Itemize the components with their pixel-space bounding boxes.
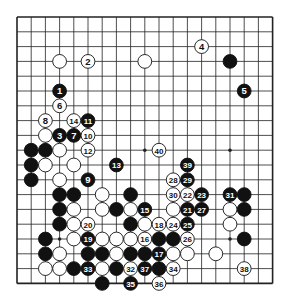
move-number: 4 — [199, 41, 205, 52]
stone-icon — [95, 188, 109, 202]
move-number: 25 — [183, 221, 192, 230]
black-stone-39: 39 — [181, 158, 195, 172]
black-stone-5: 5 — [237, 84, 251, 98]
stone-icon — [181, 247, 195, 261]
stone-icon — [53, 247, 67, 261]
white-stone-38: 38 — [237, 262, 251, 276]
move-number: 27 — [197, 206, 206, 215]
white-stone-8: 8 — [39, 114, 53, 128]
stone-icon — [24, 158, 38, 172]
stone-icon — [124, 217, 138, 231]
white-stone — [95, 203, 109, 217]
stone-icon — [166, 232, 180, 246]
stone-icon — [138, 247, 152, 261]
stone-icon — [110, 247, 124, 261]
move-number: 26 — [183, 235, 192, 244]
black-stone — [24, 173, 38, 187]
white-stone — [124, 232, 138, 246]
white-stone — [95, 232, 109, 246]
stone-icon — [67, 262, 81, 276]
black-stone-29: 29 — [181, 173, 195, 187]
move-number: 19 — [84, 235, 93, 244]
stone-icon — [138, 217, 152, 231]
move-number: 38 — [240, 265, 249, 274]
black-stone-3: 3 — [53, 129, 67, 143]
stone-icon — [67, 203, 81, 217]
white-stone-40: 40 — [152, 143, 166, 157]
white-stone-18: 18 — [152, 217, 166, 231]
black-stone-23: 23 — [195, 188, 209, 202]
black-stone-13: 13 — [110, 158, 124, 172]
stone-icon — [95, 247, 109, 261]
white-stone — [138, 55, 152, 69]
white-stone — [223, 203, 237, 217]
move-number: 3 — [57, 130, 62, 141]
move-number: 29 — [183, 176, 192, 185]
stone-icon — [39, 247, 53, 261]
black-stone-9: 9 — [81, 173, 95, 187]
stone-icon — [39, 232, 53, 246]
stone-icon — [39, 158, 53, 172]
stone-icon — [124, 203, 138, 217]
stone-icon — [223, 217, 237, 231]
move-number: 2 — [85, 56, 90, 67]
black-stone — [39, 232, 53, 246]
black-stone — [138, 247, 152, 261]
black-stone-27: 27 — [195, 203, 209, 217]
go-board: 1234567891011121314151617181920212223242… — [0, 0, 286, 307]
stone-icon — [110, 232, 124, 246]
stone-icon — [67, 158, 81, 172]
black-stone-7: 7 — [67, 129, 81, 143]
white-stone — [67, 158, 81, 172]
white-stone — [67, 203, 81, 217]
stone-icon — [81, 247, 95, 261]
move-number: 9 — [85, 174, 90, 185]
stone-icon — [166, 247, 180, 261]
black-stone — [124, 188, 138, 202]
black-stone — [53, 188, 67, 202]
black-stone-19: 19 — [81, 232, 95, 246]
stone-icon — [95, 262, 109, 276]
white-stone-4: 4 — [195, 40, 209, 54]
star-point-icon — [143, 148, 147, 152]
white-stone-16: 16 — [138, 232, 152, 246]
white-stone — [124, 203, 138, 217]
stone-icon — [152, 232, 166, 246]
stone-icon — [53, 55, 67, 69]
black-stone — [95, 277, 109, 291]
white-stone-10: 10 — [81, 129, 95, 143]
black-stone — [152, 232, 166, 246]
stone-icon — [24, 143, 38, 157]
white-stone — [67, 232, 81, 246]
move-number: 24 — [169, 221, 178, 230]
stone-icon — [166, 203, 180, 217]
move-number: 22 — [183, 191, 192, 200]
move-number: 5 — [242, 85, 248, 96]
black-stone-37: 37 — [138, 262, 152, 276]
move-number: 33 — [84, 265, 93, 274]
black-stone-35: 35 — [124, 277, 138, 291]
white-stone — [110, 232, 124, 246]
move-number: 28 — [169, 176, 178, 185]
stone-icon — [124, 232, 138, 246]
move-number: 35 — [126, 280, 135, 289]
white-stone — [39, 262, 53, 276]
black-stone-17: 17 — [152, 247, 166, 261]
stone-icon — [110, 262, 124, 276]
move-number: 6 — [57, 100, 62, 111]
black-stone — [237, 203, 251, 217]
move-number: 39 — [183, 161, 192, 170]
stone-icon — [152, 262, 166, 276]
stone-icon — [124, 188, 138, 202]
white-stone-32: 32 — [124, 262, 138, 276]
black-stone-21: 21 — [181, 203, 195, 217]
white-stone — [95, 188, 109, 202]
black-stone — [24, 143, 38, 157]
move-number: 17 — [155, 250, 164, 259]
move-number: 30 — [169, 191, 178, 200]
black-stone — [39, 247, 53, 261]
black-stone — [110, 203, 124, 217]
stone-icon — [95, 203, 109, 217]
move-number: 7 — [71, 130, 76, 141]
black-stone — [124, 217, 138, 231]
